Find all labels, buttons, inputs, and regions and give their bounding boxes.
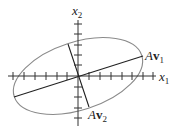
x1-label-sub: 1 <box>165 76 170 86</box>
av2-sub: 2 <box>102 114 107 124</box>
x2-label-sub: 2 <box>78 10 83 20</box>
x1-axis-label: x1 <box>159 70 169 86</box>
av1-sub: 1 <box>159 55 164 65</box>
av1-matrix: A <box>145 48 153 63</box>
av2-label: Av2 <box>88 108 107 124</box>
av2-matrix: A <box>88 107 96 122</box>
x2-axis-label: x2 <box>72 4 82 20</box>
av1-label: Av1 <box>145 49 164 65</box>
